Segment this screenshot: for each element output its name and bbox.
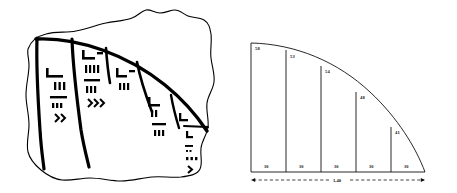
ordinate-label-4: 48 bbox=[360, 95, 365, 100]
base-label-5: 30 bbox=[404, 164, 409, 169]
tablet-outline bbox=[26, 10, 214, 181]
figure-root: Line drawing of a broken clay tablet wit… bbox=[0, 0, 457, 193]
tablet-divider-6 bbox=[184, 126, 208, 127]
ordinate-label-2: 53 bbox=[290, 54, 295, 59]
base-label-4: 30 bbox=[369, 164, 374, 169]
ordinate-label-5: 41 bbox=[395, 130, 400, 135]
geometric-diagram-svg: 58 53 54 48 41 30 30 30 30 30 1,40 bbox=[228, 0, 457, 193]
ordinate-label-3: 54 bbox=[325, 69, 330, 74]
base-label-2: 30 bbox=[299, 164, 304, 169]
diagram-arc-curve bbox=[251, 43, 425, 172]
base-label-1: 30 bbox=[264, 164, 269, 169]
base-label-3: 30 bbox=[334, 164, 339, 169]
span-width-label: 1,40 bbox=[333, 178, 342, 183]
span-arrowhead-left bbox=[251, 178, 255, 182]
tablet-drawing-svg bbox=[0, 0, 228, 193]
ordinate-label-1: 58 bbox=[255, 46, 260, 51]
tablet-drawing-panel: Line drawing of a broken clay tablet wit… bbox=[0, 0, 228, 193]
geometric-diagram-panel: 58 53 54 48 41 30 30 30 30 30 1,40 quart… bbox=[228, 0, 457, 193]
span-arrowhead-right bbox=[421, 178, 425, 182]
